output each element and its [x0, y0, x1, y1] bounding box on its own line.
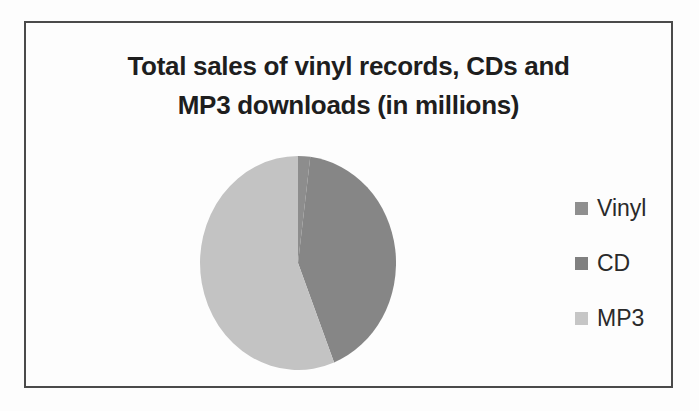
- chart-frame: Total sales of vinyl records, CDs and MP…: [24, 21, 673, 388]
- legend-swatch-cd: [575, 257, 588, 270]
- legend-label-vinyl: Vinyl: [597, 197, 646, 219]
- legend-swatch-vinyl: [575, 202, 588, 215]
- legend-item-vinyl: Vinyl: [575, 197, 646, 219]
- pie-chart: [200, 156, 396, 370]
- legend: Vinyl CD MP3: [575, 197, 646, 362]
- chart-title: Total sales of vinyl records, CDs and MP…: [26, 47, 671, 125]
- chart-title-line-1: Total sales of vinyl records, CDs and: [26, 47, 671, 86]
- legend-item-cd: CD: [575, 252, 646, 274]
- legend-item-mp3: MP3: [575, 307, 646, 329]
- legend-swatch-mp3: [575, 312, 588, 325]
- legend-label-mp3: MP3: [597, 307, 644, 329]
- chart-title-line-2: MP3 downloads (in millions): [26, 86, 671, 125]
- pie-plot-area: [200, 156, 396, 370]
- legend-label-cd: CD: [597, 252, 630, 274]
- scanned-page: Total sales of vinyl records, CDs and MP…: [0, 0, 699, 411]
